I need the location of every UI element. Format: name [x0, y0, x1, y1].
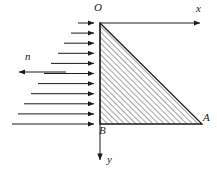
figure-drawing [0, 0, 217, 178]
triangle-body [100, 23, 202, 124]
vertex-a-label: A [203, 112, 210, 123]
x-axis-label: x [196, 3, 201, 14]
vertex-b-label: B [99, 125, 106, 136]
y-axis-label: y [107, 154, 112, 165]
pressure-load-arrows [12, 23, 94, 124]
origin-label: O [94, 2, 102, 13]
figure-container: O x y A B n [0, 0, 217, 178]
normal-vector-label: n [25, 51, 31, 62]
